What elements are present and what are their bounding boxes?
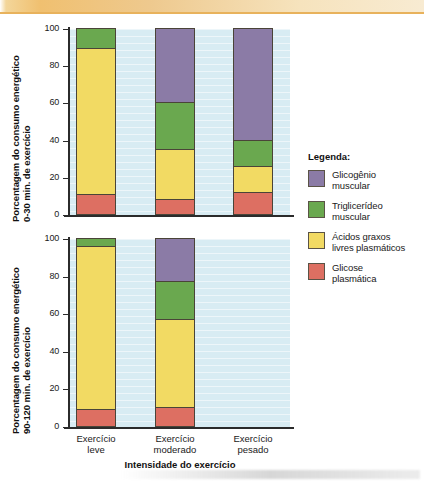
y-tick-label-bottom-20: 20 (37, 383, 59, 393)
legend-item-label-1: Triglicerídeomuscular (332, 200, 383, 222)
bar-segment (76, 238, 116, 247)
y-axis-line-top (68, 27, 70, 217)
bar-segment (155, 238, 195, 282)
bar-segment (155, 319, 195, 408)
y-axis-title-bottom-line1: Porcentagem do consumo energético (10, 267, 21, 434)
x-category-label-1-line0: Exercício (135, 433, 215, 444)
x-category-label-2-line0: Exercício (213, 433, 293, 444)
legend-item-1: Triglicerídeomuscular (308, 200, 424, 222)
x-category-label-0-line1: leve (56, 444, 136, 455)
y-tick-label-top-80: 80 (37, 60, 59, 70)
bar-top-1 (155, 29, 195, 215)
legend-title: Legenda: (308, 151, 424, 162)
bar-segment (233, 140, 273, 167)
x-category-label-1-line1: moderado (135, 444, 215, 455)
x-category-label-0-line0: Exercício (56, 433, 136, 444)
legend-item-label-3-line0: Glicose (332, 262, 376, 273)
x-category-label-2-line1: pesado (213, 444, 293, 455)
bar-segment (155, 28, 195, 103)
bar-bottom-1 (155, 239, 195, 427)
x-axis-title: Intensidade do exercício (50, 459, 310, 470)
legend-item-label-3-line1: plasmática (332, 273, 376, 284)
bar-bottom-0 (76, 239, 116, 427)
y-axis-title-top-line1: Porcentagem do consumo energético (10, 55, 21, 222)
x-category-label-1: Exercíciomoderado (135, 433, 215, 455)
legend-item-label-0-line1: muscular (332, 180, 376, 191)
bar-segment (233, 28, 273, 141)
legend-item-label-0-line0: Glicogênio (332, 169, 376, 180)
legend-item-label-2-line1: livres plasmáticos (332, 242, 405, 253)
legend-item-label-0: Glicogêniomuscular (332, 169, 376, 191)
bar-segment (155, 199, 195, 215)
legend: Legenda: GlicogêniomuscularTriglicerídeo… (308, 151, 424, 293)
y-axis-title-top: Porcentagem do consumo energético 0-30 m… (10, 55, 32, 222)
decorative-top-rule (0, 12, 424, 14)
y-axis-title-bottom-line2: 90-120 min. de exercício (21, 267, 32, 434)
legend-item-label-2: Ácidos graxoslivres plasmáticos (332, 231, 405, 253)
legend-item-label-3: Glicoseplasmática (332, 262, 376, 284)
y-tick-label-top-60: 60 (37, 97, 59, 107)
bar-top-2 (233, 29, 273, 215)
y-tick-label-bottom-0: 0 (37, 421, 59, 431)
page-artifact (120, 470, 420, 479)
bar-segment (233, 192, 273, 215)
legend-swatch-icon-1 (308, 201, 325, 218)
y-tick-label-bottom-100: 100 (37, 233, 59, 243)
bar-segment (76, 48, 116, 194)
legend-swatch-icon-2 (308, 232, 325, 249)
bar-segment (76, 246, 116, 411)
bar-segment (155, 281, 195, 320)
x-axis-line-bottom (64, 427, 294, 429)
bar-segment (155, 407, 195, 427)
y-tick-label-top-0: 0 (37, 209, 59, 219)
y-axis-line-bottom (68, 237, 70, 429)
bar-segment (233, 166, 273, 193)
legend-item-label-1-line1: muscular (332, 211, 383, 222)
legend-swatch-icon-0 (308, 170, 325, 187)
legend-item-2: Ácidos graxoslivres plasmáticos (308, 231, 424, 253)
y-tick-label-top-40: 40 (37, 135, 59, 145)
y-axis-title-bottom: Porcentagem do consumo energético 90-120… (10, 267, 32, 434)
bar-segment (155, 102, 195, 150)
bar-top-0 (76, 29, 116, 215)
legend-items: GlicogêniomuscularTriglicerídeomuscularÁ… (308, 169, 424, 284)
x-axis-line-top (64, 215, 294, 217)
x-category-label-0: Exercícioleve (56, 433, 136, 455)
x-category-label-2: Exercíciopesado (213, 433, 293, 455)
legend-item-0: Glicogêniomuscular (308, 169, 424, 191)
legend-item-3: Glicoseplasmática (308, 262, 424, 284)
y-tick-label-top-20: 20 (37, 172, 59, 182)
bar-segment (155, 149, 195, 200)
bar-segment (76, 409, 116, 427)
y-tick-label-bottom-60: 60 (37, 308, 59, 318)
legend-item-label-2-line0: Ácidos graxos (332, 231, 405, 242)
bar-segment (76, 194, 116, 215)
y-tick-label-bottom-80: 80 (37, 271, 59, 281)
y-tick-label-bottom-40: 40 (37, 346, 59, 356)
bar-segment (76, 28, 116, 49)
y-axis-title-top-line2: 0-30 min. de exercício (21, 55, 32, 222)
legend-swatch-icon-3 (308, 263, 325, 280)
legend-item-label-1-line0: Triglicerídeo (332, 200, 383, 211)
y-tick-label-top-100: 100 (37, 23, 59, 33)
